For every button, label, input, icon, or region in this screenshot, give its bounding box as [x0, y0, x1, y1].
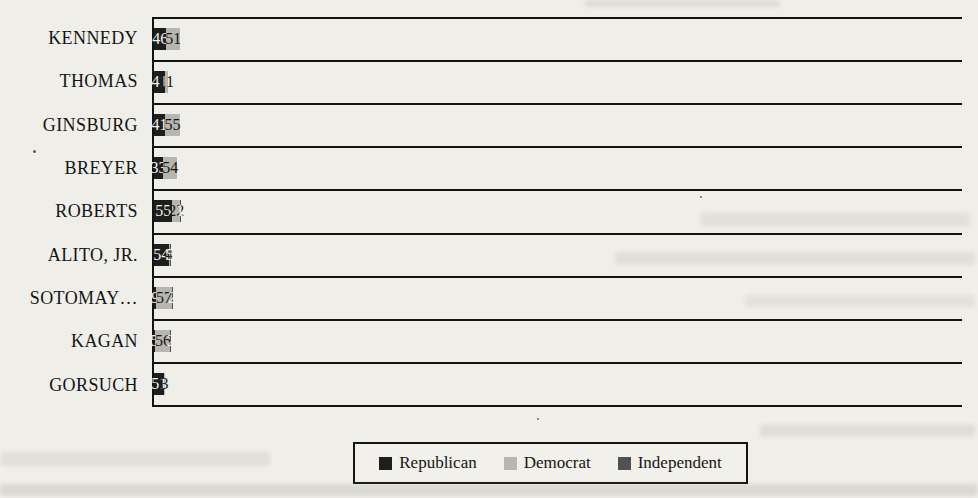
bleed-through-text-artifact: [0, 484, 978, 496]
chart-row: 4651: [154, 17, 962, 60]
bar-value-label: 55: [164, 116, 180, 134]
category-label: BREYER: [0, 147, 140, 190]
category-label: GORSUCH: [0, 364, 140, 407]
bar-segment-democrat: 3: [164, 373, 165, 395]
bar-segment-independent: 2: [172, 287, 173, 309]
legend-item-democrat: Democrat: [504, 453, 591, 473]
category-label: THOMAS: [0, 60, 140, 103]
legend-item-republican: Republican: [379, 453, 476, 473]
bleed-through-text-artifact: [0, 452, 270, 466]
stacked-bar: 4155: [154, 114, 186, 136]
chart-row: 513: [154, 362, 962, 405]
bar-value-label: 11: [159, 73, 174, 91]
chart-row: 55221: [154, 189, 962, 232]
legend-label: Democrat: [524, 453, 591, 473]
scanned-page: KENNEDYTHOMASGINSBURGBREYERROBERTSALITO,…: [0, 0, 978, 498]
stacked-bar: 55221: [154, 200, 194, 222]
bar-value-label: 54: [162, 159, 178, 177]
stacked-bar: 513: [154, 373, 178, 395]
category-axis-labels: KENNEDYTHOMASGINSBURGBREYERROBERTSALITO,…: [0, 17, 140, 407]
legend-swatch-independent: [618, 457, 631, 470]
legend-label: Republican: [399, 453, 476, 473]
category-label: ALITO, JR.: [0, 234, 140, 277]
legend-label: Independent: [638, 453, 722, 473]
legend-item-independent: Independent: [618, 453, 722, 473]
chart-row: 9572: [154, 276, 962, 319]
bar-segment-independent: 2: [170, 330, 171, 352]
stacked-bar: 9572: [154, 287, 186, 309]
bar-value-label: 2: [167, 332, 175, 350]
stacked-bar: 5562: [154, 330, 186, 352]
bar-value-label: 51: [165, 30, 181, 48]
stacked-bar: 4651: [154, 28, 186, 50]
legend-swatch-democrat: [504, 457, 517, 470]
chart-row: 5445: [154, 233, 962, 276]
bar-segment-democrat: 55: [165, 114, 180, 136]
stacked-bar: 5445: [154, 244, 186, 266]
bleed-through-text-artifact: [585, 0, 780, 7]
category-label: KENNEDY: [0, 17, 140, 60]
chart-row: 4111: [154, 60, 962, 103]
bar-segment-democrat: 11: [165, 71, 168, 93]
bar-value-label: 2: [168, 289, 176, 307]
category-label: SOTOMAY…: [0, 277, 140, 320]
plot-area: 465141114155335455221544595725562513: [152, 17, 962, 407]
stacked-bar: 4111: [154, 71, 185, 93]
stacked-bar: 3354: [154, 157, 186, 179]
bar-segment-democrat: 54: [163, 157, 178, 179]
category-label: KAGAN: [0, 320, 140, 363]
bleed-through-text-artifact: [760, 424, 975, 437]
bar-value-label: 3: [161, 375, 169, 393]
bar-segment-independent: 5: [170, 244, 171, 266]
bar-value-label: 5: [166, 246, 174, 264]
category-label: ROBERTS: [0, 190, 140, 233]
chart-row: 3354: [154, 146, 962, 189]
scan-speck: [537, 418, 539, 420]
chart-legend: RepublicanDemocratIndependent: [353, 442, 748, 484]
bar-segment-democrat: 51: [166, 28, 180, 50]
chart-row: 4155: [154, 103, 962, 146]
bar-segment-republican: 41: [154, 114, 165, 136]
category-label: GINSBURG: [0, 104, 140, 147]
chart-row: 5562: [154, 319, 962, 362]
bar-value-label: 1: [176, 202, 184, 220]
legend-swatch-republican: [379, 457, 392, 470]
